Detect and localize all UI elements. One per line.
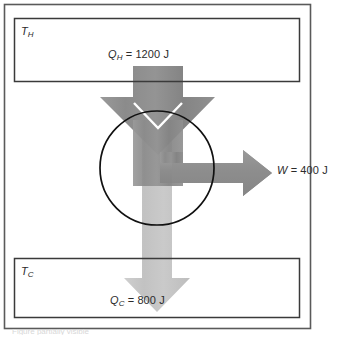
heat-out-label: QC = 800 J	[110, 294, 165, 306]
caption-fragment: Figure partially visible	[12, 327, 89, 335]
heat-engine-figure: TH TC QH = 1200 J QC = 800 J W = 400 J F…	[0, 0, 350, 337]
heat-in-equals: =	[126, 48, 133, 60]
heat-in-unit: J	[163, 48, 169, 60]
hot-reservoir-label: TH	[21, 25, 34, 37]
cold-reservoir-symbol: T	[21, 265, 28, 277]
hot-reservoir-symbol: T	[21, 25, 28, 37]
heat-out-value: 800	[137, 294, 156, 306]
hot-reservoir-subscript: H	[28, 30, 34, 39]
work-out-value: 400	[300, 164, 319, 176]
heat-out-equals: =	[128, 294, 135, 306]
heat-out-unit: J	[159, 294, 165, 306]
heat-out-subscript: C	[119, 299, 125, 308]
work-out-arrow	[160, 150, 272, 196]
heat-in-value: 1200	[135, 48, 160, 60]
cold-reservoir-subscript: C	[28, 270, 34, 279]
work-out-label: W = 400 J	[277, 164, 328, 176]
heat-out-symbol: Q	[110, 294, 119, 306]
work-out-symbol: W	[277, 164, 287, 176]
cold-reservoir-label: TC	[21, 265, 34, 277]
heat-in-symbol: Q	[108, 48, 117, 60]
work-out-equals: =	[291, 164, 298, 176]
heat-in-subscript: H	[117, 53, 123, 62]
heat-in-label: QH = 1200 J	[108, 48, 169, 60]
work-out-unit: J	[322, 164, 328, 176]
